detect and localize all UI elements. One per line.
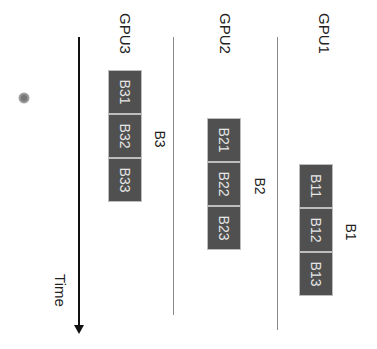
lane-divider-gpu2 xyxy=(173,37,174,315)
lane-label-gpu2: GPU2 xyxy=(217,13,234,54)
lane-label-gpu1: GPU1 xyxy=(316,13,333,54)
block-b21: B21 xyxy=(207,118,241,162)
block-b23: B23 xyxy=(207,206,241,250)
group-label-b1: B1 xyxy=(343,223,359,240)
decorative-bug-icon xyxy=(18,92,30,104)
block-b11: B11 xyxy=(299,164,333,208)
block-b31: B31 xyxy=(108,70,142,114)
lane-label-gpu3: GPU3 xyxy=(117,13,134,54)
group-label-b3: B3 xyxy=(152,130,168,147)
block-b22: B22 xyxy=(207,162,241,206)
block-b12: B12 xyxy=(299,208,333,252)
lane-divider-gpu1 xyxy=(277,37,278,330)
time-arrow-icon xyxy=(74,325,84,334)
block-b33: B33 xyxy=(108,158,142,202)
time-axis-label: Time xyxy=(52,274,69,307)
time-axis xyxy=(78,37,80,327)
block-b13: B13 xyxy=(299,252,333,296)
group-label-b2: B2 xyxy=(252,177,268,194)
block-b32: B32 xyxy=(108,114,142,158)
